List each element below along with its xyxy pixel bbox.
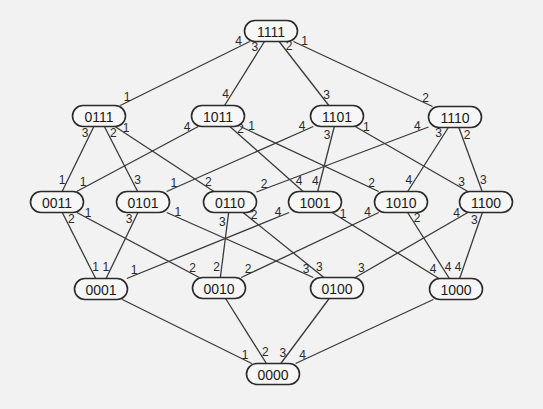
edge-label-from: 2 bbox=[68, 212, 75, 226]
node-0101: 0101 bbox=[117, 192, 170, 213]
edge-label-to: 1 bbox=[59, 173, 66, 187]
node-label: 0000 bbox=[257, 367, 288, 383]
edge-label-to: 3 bbox=[303, 262, 310, 276]
edge-0110-0100 bbox=[243, 213, 324, 278]
node-1100: 1100 bbox=[460, 192, 513, 213]
edge-label-from: 3 bbox=[82, 126, 89, 140]
edge-1001-1000 bbox=[332, 213, 439, 279]
edge-label-from: 3 bbox=[471, 213, 478, 227]
edge-label-to: 1 bbox=[170, 176, 177, 190]
node-label: 0010 bbox=[203, 281, 234, 297]
node-label: 0111 bbox=[84, 109, 113, 125]
edge-label-to: 4 bbox=[222, 87, 229, 101]
edge-label-from: 4 bbox=[364, 205, 371, 219]
edge-label-from: 4 bbox=[453, 206, 460, 220]
edge-label-to: 3 bbox=[480, 173, 487, 187]
lattice-svg: 4134231231231241241241341342342321123113… bbox=[0, 0, 543, 409]
node-label: 0011 bbox=[42, 195, 72, 211]
node-1010: 1010 bbox=[375, 192, 428, 213]
edge-label-from: 3 bbox=[252, 40, 259, 54]
nodes-layer: 1111011110111101111000110101011010011010… bbox=[31, 21, 513, 385]
lattice-diagram: 4134231231231241241241341342342321123113… bbox=[0, 0, 543, 409]
edge-label-to: 2 bbox=[189, 261, 196, 275]
node-0001: 0001 bbox=[75, 279, 128, 300]
edge-1000-0000 bbox=[296, 300, 434, 364]
node-label: 1000 bbox=[440, 282, 471, 298]
edge-label-to: 4 bbox=[299, 348, 306, 362]
edge-label-from: 3 bbox=[324, 128, 331, 142]
edge-label-to: 3 bbox=[316, 260, 323, 274]
node-label: 1101 bbox=[322, 109, 352, 125]
edge-1001-0001 bbox=[127, 213, 289, 279]
edge-0111-0011 bbox=[62, 127, 94, 192]
edge-label-from: 1 bbox=[301, 34, 308, 48]
edge-label-from: 4 bbox=[275, 205, 282, 219]
edge-label-to: 3 bbox=[458, 175, 465, 189]
edge-label-to: 2 bbox=[422, 91, 429, 105]
edge-label-to: 1 bbox=[103, 260, 110, 274]
node-1000: 1000 bbox=[430, 279, 483, 300]
edge-label-to: 2 bbox=[368, 176, 375, 190]
edge-label-to: 4 bbox=[312, 174, 319, 188]
edge-label-to: 4 bbox=[430, 262, 437, 276]
node-0110: 0110 bbox=[204, 192, 257, 213]
node-label: 0110 bbox=[215, 195, 245, 211]
edge-label-to: 2 bbox=[261, 177, 268, 191]
edge-label-to: 1 bbox=[80, 175, 87, 189]
edge-label-to: 4 bbox=[405, 173, 412, 187]
node-label: 1011 bbox=[203, 109, 233, 125]
edge-label-to: 1 bbox=[131, 263, 138, 277]
edge-label-to: 3 bbox=[279, 346, 286, 360]
edge-label-to: 3 bbox=[134, 173, 141, 187]
node-0010: 0010 bbox=[193, 278, 246, 299]
node-label: 0101 bbox=[127, 195, 158, 211]
edge-label-from: 1 bbox=[340, 207, 347, 221]
edge-label-to: 1 bbox=[124, 90, 131, 104]
node-label: 1100 bbox=[471, 195, 501, 211]
edge-1110-0110 bbox=[257, 127, 429, 192]
edge-label-to: 4 bbox=[445, 260, 452, 274]
edge-label-from: 3 bbox=[219, 215, 226, 229]
edge-label-from: 1 bbox=[175, 205, 182, 219]
edge-label-from: 2 bbox=[414, 211, 421, 225]
node-0111: 0111 bbox=[73, 106, 126, 127]
edge-label-from: 1 bbox=[363, 120, 370, 134]
node-1101: 1101 bbox=[311, 106, 364, 127]
edge-1111-1110 bbox=[293, 42, 432, 107]
node-label: 0001 bbox=[85, 282, 116, 298]
node-label: 1001 bbox=[299, 195, 330, 211]
edge-label-from: 4 bbox=[299, 119, 306, 133]
node-1110: 1110 bbox=[429, 107, 482, 128]
edge-label-to: 2 bbox=[205, 175, 212, 189]
node-label: 0100 bbox=[321, 281, 352, 297]
edge-label-to: 4 bbox=[296, 174, 303, 188]
node-label: 1010 bbox=[385, 195, 416, 211]
node-0011: 0011 bbox=[31, 192, 84, 213]
node-label: 1111 bbox=[257, 24, 285, 40]
edge-label-from: 1 bbox=[85, 206, 92, 220]
edge-label-from: 4 bbox=[235, 34, 242, 48]
node-1111: 1111 bbox=[245, 21, 298, 42]
edge-label-from: 2 bbox=[464, 128, 471, 142]
edge-label-from: 4 bbox=[414, 119, 421, 133]
edge-0111-0110 bbox=[115, 127, 214, 192]
node-1011: 1011 bbox=[192, 106, 245, 127]
edge-label-to: 2 bbox=[262, 345, 269, 359]
edge-label-from: 1 bbox=[248, 119, 255, 133]
node-0100: 0100 bbox=[311, 278, 364, 299]
edge-1110-1010 bbox=[408, 128, 449, 192]
edge-label-to: 2 bbox=[213, 260, 220, 274]
edge-label-to: 3 bbox=[358, 261, 365, 275]
node-1001: 1001 bbox=[289, 192, 342, 213]
edge-label-from: 3 bbox=[126, 212, 133, 226]
node-label: 1110 bbox=[440, 110, 469, 126]
edge-label-to: 1 bbox=[92, 260, 99, 274]
edge-label-to: 1 bbox=[242, 348, 249, 362]
edge-label-to: 2 bbox=[245, 262, 252, 276]
edge-label-from: 3 bbox=[435, 126, 442, 140]
edge-label-from: 2 bbox=[110, 126, 117, 140]
edge-label-from: 4 bbox=[184, 120, 191, 134]
node-0000: 0000 bbox=[247, 364, 300, 385]
edge-label-to: 4 bbox=[455, 260, 462, 274]
edge-label-to: 3 bbox=[323, 88, 330, 102]
